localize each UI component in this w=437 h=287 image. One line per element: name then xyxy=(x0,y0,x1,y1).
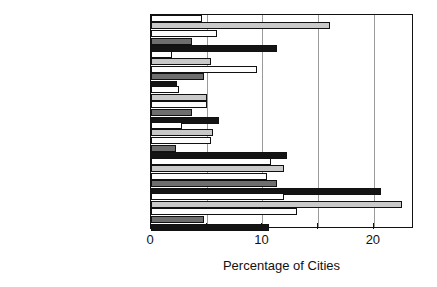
x-tick-label-20: 20 xyxy=(366,232,380,247)
bar xyxy=(151,165,284,172)
bar xyxy=(151,193,284,200)
bar xyxy=(151,216,204,223)
bar xyxy=(151,201,402,208)
bar xyxy=(151,15,202,22)
bar xyxy=(151,101,207,108)
x-tick-5 xyxy=(206,223,207,229)
bar xyxy=(151,173,267,180)
bar xyxy=(151,180,277,187)
bar xyxy=(151,30,217,37)
bar xyxy=(151,122,182,129)
x-tick-20 xyxy=(373,223,374,229)
bar xyxy=(151,137,211,144)
bar xyxy=(151,94,207,101)
bar xyxy=(151,73,204,80)
bar-chart: Food Distribution Crisis Shelter Emergen… xyxy=(0,0,437,287)
bar xyxy=(151,51,172,58)
bar xyxy=(151,38,192,45)
bar xyxy=(151,58,211,65)
x-tick-10 xyxy=(261,223,262,229)
x-axis-title: Percentage of Cities xyxy=(150,258,413,273)
bar xyxy=(151,145,176,152)
x-tick-0 xyxy=(150,223,151,229)
x-tick-15 xyxy=(317,223,318,229)
x-tick-label-0: 0 xyxy=(146,232,153,247)
plot-area xyxy=(150,14,413,228)
gridline-15 xyxy=(318,15,319,227)
x-axis: 01020 xyxy=(150,228,413,229)
bar xyxy=(151,208,297,215)
bar xyxy=(151,66,257,73)
bar xyxy=(151,86,179,93)
bar xyxy=(151,158,271,165)
bar xyxy=(151,22,330,29)
x-tick-label-10: 10 xyxy=(254,232,268,247)
gridline-20 xyxy=(374,15,375,227)
bar xyxy=(151,109,192,116)
bar xyxy=(151,129,213,136)
